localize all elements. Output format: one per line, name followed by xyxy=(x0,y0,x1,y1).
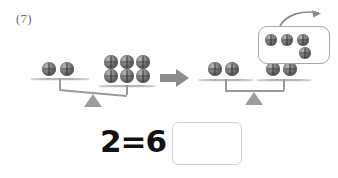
scale-ball xyxy=(136,69,150,83)
scale-ball xyxy=(208,62,222,76)
scale-ball xyxy=(120,55,134,69)
scale-ball xyxy=(104,69,118,83)
fulcrum xyxy=(84,94,102,107)
equation-left-operand: 2 xyxy=(100,126,121,157)
scale-ball xyxy=(283,62,297,76)
right-pan-post xyxy=(283,79,285,90)
scale-ball xyxy=(104,55,118,69)
right-arrow-icon xyxy=(160,68,190,92)
right-pan-post xyxy=(126,85,128,95)
removed-ball xyxy=(299,47,311,59)
fulcrum xyxy=(245,92,263,105)
equation-operator: = xyxy=(121,126,146,157)
answer-input-box[interactable] xyxy=(172,122,242,165)
worksheet-problem-page: (7) xyxy=(0,0,338,178)
removed-balls-box xyxy=(258,26,330,64)
equation-right-operand: 6 xyxy=(146,126,167,157)
removed-ball xyxy=(265,34,277,46)
scale-ball xyxy=(60,62,74,76)
equation-row: 2 = 6 xyxy=(100,126,166,157)
left-pan-post xyxy=(225,79,227,90)
scale-ball xyxy=(136,55,150,69)
problem-number-label: (7) xyxy=(16,12,32,25)
scale-ball xyxy=(225,62,239,76)
removed-ball xyxy=(281,34,293,46)
scale-ball xyxy=(120,69,134,83)
left-pan-post xyxy=(59,78,61,89)
removed-ball xyxy=(297,34,309,46)
scale-ball xyxy=(42,62,56,76)
scale-ball xyxy=(266,62,280,76)
